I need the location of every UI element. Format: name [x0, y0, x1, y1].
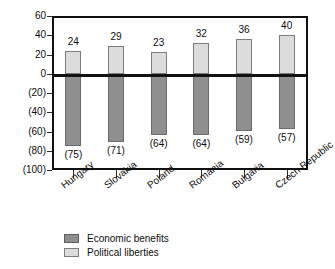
zero-baseline [52, 74, 308, 77]
bar-political-liberties [279, 35, 295, 74]
y-tick-label: 0 [0, 69, 46, 79]
legend-label-economic-benefits: Economic benefits [87, 233, 169, 244]
y-tick-label: (100) [0, 165, 46, 175]
bar-value-label-political-liberties: 36 [223, 25, 266, 35]
y-tick-mark [47, 132, 52, 133]
bar-value-label-economic-benefits: (57) [265, 133, 308, 143]
bar-political-liberties [65, 51, 81, 74]
bar-value-label-political-liberties: 23 [137, 38, 180, 48]
bar-group: 24(75) [52, 16, 95, 170]
bar-economic-benefits [279, 74, 295, 129]
y-tick-mark [47, 74, 52, 75]
y-tick-label: (60) [0, 127, 46, 137]
y-tick-mark [47, 112, 52, 113]
y-tick-mark [47, 16, 52, 17]
bar-political-liberties [151, 52, 167, 74]
y-tick-label: 20 [0, 50, 46, 60]
bar-group: 36(59) [223, 16, 266, 170]
bar-value-label-political-liberties: 24 [52, 37, 95, 47]
y-axis: 6040200(20)(40)(60)(80)(100) [0, 0, 46, 269]
bar-political-liberties [108, 46, 124, 74]
y-tick-label: (40) [0, 107, 46, 117]
bar-economic-benefits [151, 74, 167, 136]
legend-item-political-liberties: Political liberties [64, 245, 169, 259]
bar-value-label-political-liberties: 29 [95, 32, 138, 42]
legend-label-political-liberties: Political liberties [87, 247, 159, 258]
y-tick-mark [47, 151, 52, 152]
y-tick-label: 40 [0, 30, 46, 40]
y-tick-label: 60 [0, 11, 46, 21]
legend-swatch-icon-political-liberties [64, 248, 79, 257]
y-tick-label: (80) [0, 146, 46, 156]
y-tick-mark [47, 55, 52, 56]
bar-group: 40(57) [265, 16, 308, 170]
bar-value-label-economic-benefits: (59) [223, 135, 266, 145]
bar-value-label-political-liberties: 32 [180, 29, 223, 39]
bar-value-label-political-liberties: 40 [265, 21, 308, 31]
legend-swatch-icon-economic-benefits [64, 234, 79, 243]
legend-item-economic-benefits: Economic benefits [64, 231, 169, 245]
y-tick-mark [47, 35, 52, 36]
bar-political-liberties [193, 43, 209, 74]
bar-group: 29(71) [95, 16, 138, 170]
bars-layer: 24(75)29(71)23(64)32(64)36(59)40(57) [52, 16, 308, 170]
bar-economic-benefits [108, 74, 124, 142]
bar-economic-benefits [193, 74, 209, 136]
chart-legend: Economic benefits Political liberties [64, 231, 169, 259]
bar-value-label-economic-benefits: (64) [180, 139, 223, 149]
bar-group: 23(64) [137, 16, 180, 170]
y-tick-mark [47, 170, 52, 171]
bar-economic-benefits [236, 74, 252, 131]
bar-value-label-economic-benefits: (71) [95, 146, 138, 156]
bar-political-liberties [236, 39, 252, 74]
y-tick-mark [47, 93, 52, 94]
bar-value-label-economic-benefits: (64) [137, 139, 180, 149]
bar-economic-benefits [65, 74, 81, 146]
bar-group: 32(64) [180, 16, 223, 170]
y-tick-label: (20) [0, 88, 46, 98]
